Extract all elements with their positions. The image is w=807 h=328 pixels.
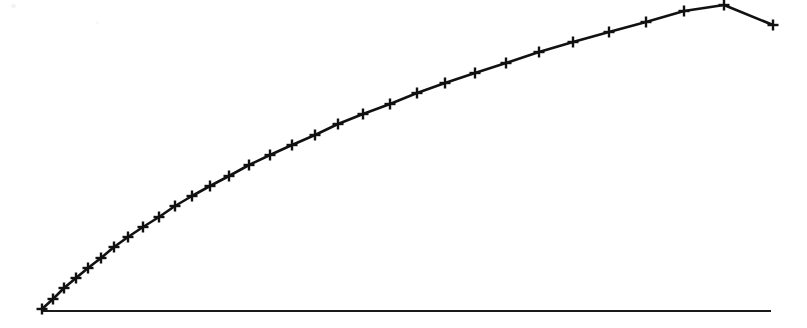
data-point-marker	[224, 171, 235, 182]
data-point-marker	[412, 88, 423, 99]
data-point-marker	[679, 6, 690, 17]
series-line-curve	[42, 5, 773, 309]
data-point-marker	[265, 150, 276, 161]
data-point-marker	[719, 0, 730, 11]
data-point-marker	[287, 140, 298, 151]
data-point-marker	[385, 99, 396, 110]
data-point-marker	[470, 68, 481, 79]
data-point-marker	[604, 27, 615, 38]
data-point-marker	[205, 181, 216, 192]
plot-area	[37, 0, 779, 315]
figure-root	[0, 0, 807, 328]
data-point-marker	[440, 78, 451, 89]
data-point-marker	[310, 130, 321, 141]
data-point-marker	[641, 17, 652, 28]
data-point-marker	[358, 109, 369, 120]
data-point-marker	[768, 20, 779, 31]
data-point-marker	[244, 160, 255, 171]
series-marker-group	[37, 0, 779, 315]
data-point-marker	[568, 37, 579, 48]
data-point-marker	[501, 58, 512, 69]
line-chart-plot	[0, 0, 807, 328]
data-point-marker	[534, 47, 545, 58]
data-point-marker	[187, 191, 198, 202]
data-point-marker	[333, 119, 344, 130]
